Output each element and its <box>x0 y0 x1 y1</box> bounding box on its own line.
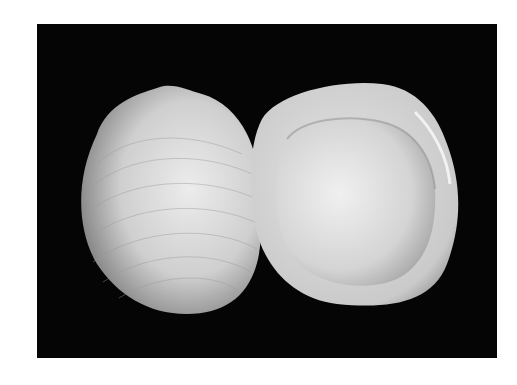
left-shell-exterior <box>81 86 262 314</box>
shell-photograph <box>37 24 497 358</box>
shell-illustration <box>37 24 497 358</box>
right-shell-interior <box>251 83 458 306</box>
